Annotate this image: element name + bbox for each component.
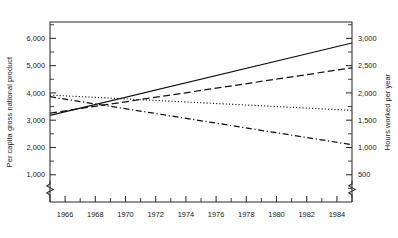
x-tick-label: 1972 bbox=[147, 210, 163, 219]
x-tick-label: 1968 bbox=[87, 210, 103, 219]
x-tick-label: 1970 bbox=[117, 210, 133, 219]
y2-tick-label: 2,000 bbox=[358, 89, 377, 98]
series-group bbox=[50, 43, 352, 145]
y2-tick-label: 2,500 bbox=[358, 61, 377, 70]
series-line-gnp-rising-dashed bbox=[50, 68, 352, 113]
x-tick-label: 1982 bbox=[298, 210, 314, 219]
y-tick-label: 4,000 bbox=[27, 89, 46, 98]
plot-frame-group bbox=[47, 22, 355, 202]
y2-tick-label: 500 bbox=[358, 170, 370, 179]
x-tick-label: 1966 bbox=[57, 210, 73, 219]
axis-ticks-group bbox=[50, 25, 352, 202]
y-tick-label: 3,000 bbox=[27, 116, 46, 125]
y-tick-label: 2,000 bbox=[27, 143, 46, 152]
line-chart: 1,0002,0003,0004,0005,0006,0005001,0001,… bbox=[0, 0, 398, 238]
y-tick-label: 5,000 bbox=[27, 61, 46, 70]
series-line-hours-flat-dotted bbox=[50, 95, 352, 110]
x-tick-label: 1974 bbox=[178, 210, 194, 219]
y-axis-title: Per capita gross national product bbox=[5, 57, 14, 168]
y-tick-label: 1,000 bbox=[27, 170, 46, 179]
series-line-hours-falling-dashdot bbox=[50, 97, 352, 145]
x-tick-label: 1976 bbox=[208, 210, 224, 219]
y2-tick-label: 3,000 bbox=[358, 34, 377, 43]
x-tick-label: 1978 bbox=[238, 210, 254, 219]
y2-tick-label: 1,500 bbox=[358, 116, 377, 125]
y-tick-label: 6,000 bbox=[27, 34, 46, 43]
y2-axis-title: Hours worked per year bbox=[383, 73, 392, 150]
plot-border bbox=[50, 22, 352, 202]
chart-figure: 1,0002,0003,0004,0005,0006,0005001,0001,… bbox=[0, 0, 398, 238]
axis-labels-group: 1,0002,0003,0004,0005,0006,0005001,0001,… bbox=[5, 34, 392, 219]
x-tick-label: 1984 bbox=[329, 210, 345, 219]
y2-tick-label: 1,000 bbox=[358, 143, 377, 152]
x-tick-label: 1980 bbox=[268, 210, 284, 219]
